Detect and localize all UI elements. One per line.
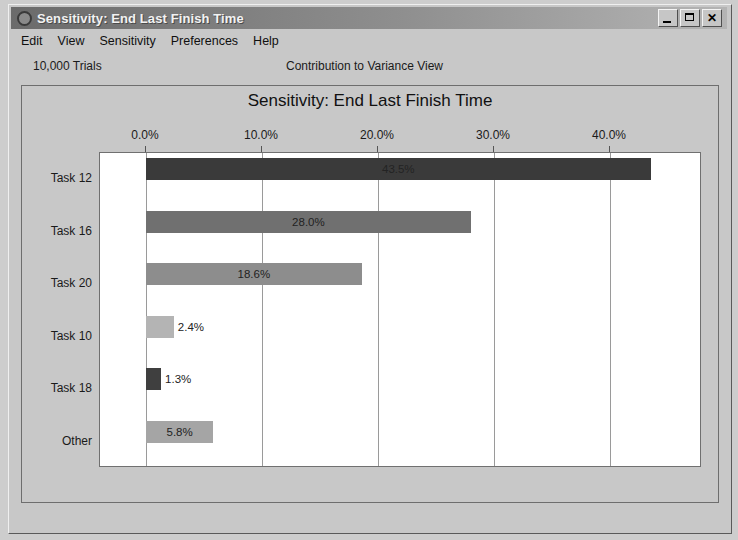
gridline (146, 153, 147, 466)
bar-value-label: 5.8% (167, 426, 193, 438)
x-axis-tick-label: 40.0% (592, 128, 626, 142)
title-bar[interactable]: Sensitivity: End Last Finish Time ✕ (11, 7, 727, 29)
application-window: Sensitivity: End Last Finish Time ✕ Edit… (8, 4, 732, 534)
close-button[interactable]: ✕ (702, 9, 722, 27)
x-axis-tick-label: 10.0% (244, 128, 278, 142)
bar-value-label: 28.0% (292, 216, 325, 228)
category-label: Other (30, 434, 92, 448)
bar-value-label: 1.3% (165, 373, 191, 385)
chart-title: Sensitivity: End Last Finish Time (22, 91, 718, 111)
category-label: Task 16 (30, 224, 92, 238)
menu-item-preferences[interactable]: Preferences (171, 34, 238, 48)
menu-item-view[interactable]: View (58, 34, 85, 48)
crystal-ball-icon (17, 11, 32, 26)
x-axis-tick-label: 30.0% (476, 128, 510, 142)
sub-header: 10,000 Trials Contribution to Variance V… (11, 55, 727, 79)
gridline (494, 153, 495, 466)
menu-item-sensitivity[interactable]: Sensitivity (99, 34, 155, 48)
x-axis-tick-label: 20.0% (360, 128, 394, 142)
bar (146, 368, 161, 390)
view-name-label: Contribution to Variance View (286, 59, 443, 73)
category-label: Task 10 (30, 329, 92, 343)
category-label: Task 18 (30, 381, 92, 395)
chart-panel: Sensitivity: End Last Finish Time 0.0%10… (21, 85, 719, 503)
category-label: Task 20 (30, 276, 92, 290)
menu-bar: Edit View Sensitivity Preferences Help (11, 31, 727, 51)
maximize-button[interactable] (680, 9, 700, 27)
gridline (378, 153, 379, 466)
gridline (610, 153, 611, 466)
bar-value-label: 2.4% (178, 321, 204, 333)
status-bar (11, 509, 727, 531)
menu-item-edit[interactable]: Edit (21, 34, 43, 48)
menu-item-help[interactable]: Help (253, 34, 279, 48)
x-axis-tick-label: 0.0% (131, 128, 158, 142)
category-label: Task 12 (30, 171, 92, 185)
x-axis: 0.0%10.0%20.0%30.0%40.0% (22, 128, 718, 150)
close-icon: ✕ (707, 12, 717, 24)
bar-value-label: 43.5% (382, 163, 415, 175)
minimize-button[interactable] (658, 9, 678, 27)
bar (146, 316, 174, 338)
trials-count: 10,000 Trials (33, 59, 102, 73)
plot-area: 43.5%28.0%18.6%2.4%1.3%5.8% (99, 152, 701, 467)
window-title: Sensitivity: End Last Finish Time (37, 11, 244, 26)
bar-value-label: 18.6% (238, 268, 271, 280)
window-controls: ✕ (658, 9, 722, 27)
gridline (262, 153, 263, 466)
